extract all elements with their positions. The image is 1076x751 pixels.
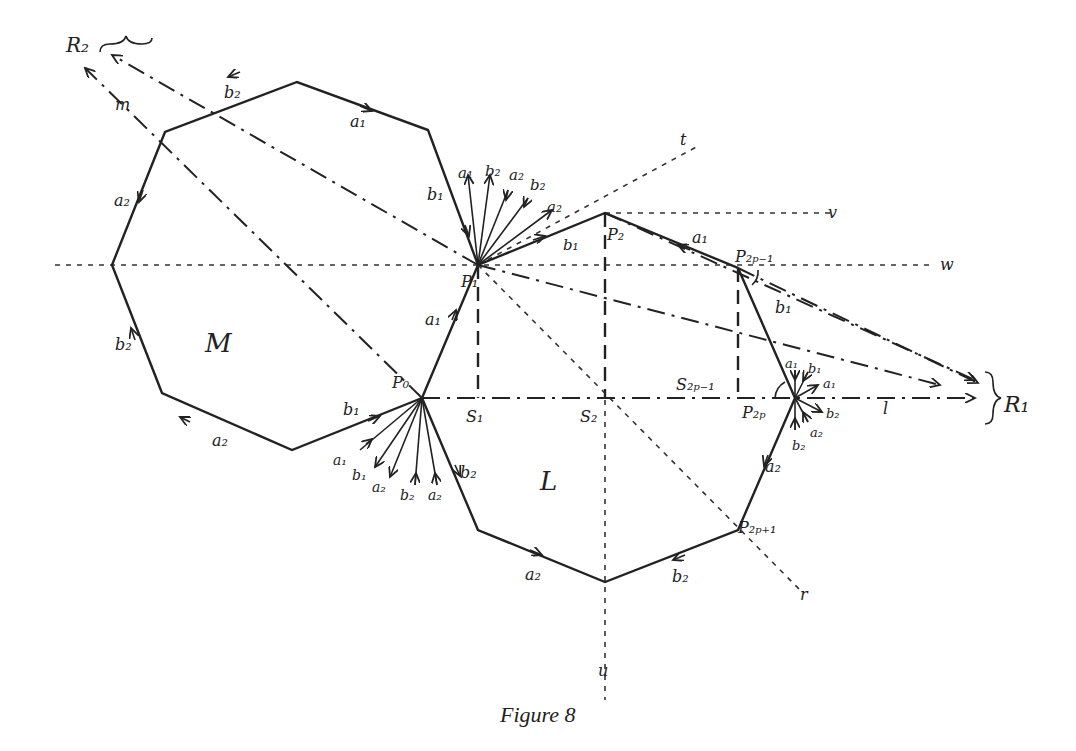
svg-text:a₂: a₂ xyxy=(428,487,442,503)
svg-text:S₂ₚ₋₁: S₂ₚ₋₁ xyxy=(676,375,715,394)
svg-text:b₂: b₂ xyxy=(485,162,501,180)
svg-text:a₁: a₁ xyxy=(785,356,798,371)
svg-text:S₁: S₁ xyxy=(466,407,483,426)
polygon-M xyxy=(112,82,478,450)
svg-text:v: v xyxy=(828,203,837,222)
svg-text:b₂: b₂ xyxy=(115,335,132,354)
svg-text:a₁: a₁ xyxy=(350,112,366,131)
svg-text:b₁: b₁ xyxy=(427,185,444,204)
figure-caption: Figure 8 xyxy=(499,702,576,727)
svg-text:P₀: P₀ xyxy=(391,373,410,392)
svg-text:P₂ₚ₋₁: P₂ₚ₋₁ xyxy=(734,247,773,266)
svg-text:P₁: P₁ xyxy=(460,272,478,291)
svg-text:b₂: b₂ xyxy=(826,406,840,421)
figure-8-diagram: R₂ m b₂ a₁ a₂ b₁ a₁ b₂ a₂ b₂ a₂ b₁ P₁ P₂… xyxy=(0,0,1076,751)
svg-text:P₂ₚ: P₂ₚ xyxy=(741,403,766,422)
svg-text:a₂: a₂ xyxy=(372,479,386,495)
svg-text:P₂ₚ₊₁: P₂ₚ₊₁ xyxy=(737,518,776,537)
svg-text:R₂: R₂ xyxy=(65,33,89,57)
labels: R₂ m b₂ a₁ a₂ b₁ a₁ b₂ a₂ b₂ a₂ b₁ P₁ P₂… xyxy=(65,33,1029,680)
svg-text:R₁: R₁ xyxy=(1003,392,1029,417)
svg-text:b₂: b₂ xyxy=(224,83,241,102)
svg-text:a₁: a₁ xyxy=(333,452,347,468)
svg-text:a₂: a₂ xyxy=(810,425,823,440)
svg-text:a₂: a₂ xyxy=(509,166,524,184)
svg-text:a₂: a₂ xyxy=(765,457,781,476)
svg-text:a₁: a₁ xyxy=(458,164,473,182)
svg-text:L: L xyxy=(539,466,557,496)
fan-P0 xyxy=(360,398,437,485)
svg-text:b₂: b₂ xyxy=(460,463,477,482)
svg-text:a₁: a₁ xyxy=(425,310,441,329)
svg-text:w: w xyxy=(940,255,954,274)
svg-text:b₁: b₁ xyxy=(808,361,822,376)
svg-text:t: t xyxy=(680,130,687,149)
svg-text:a₁: a₁ xyxy=(823,376,836,391)
svg-text:a₂: a₂ xyxy=(547,198,562,216)
svg-text:a₂: a₂ xyxy=(525,565,541,584)
svg-text:S₂: S₂ xyxy=(580,407,597,426)
svg-text:M: M xyxy=(204,328,233,358)
svg-text:b₁: b₁ xyxy=(343,400,360,419)
svg-text:r: r xyxy=(800,585,809,604)
svg-text:b₁: b₁ xyxy=(775,298,792,317)
svg-text:b₂: b₂ xyxy=(792,438,806,453)
svg-text:b₁: b₁ xyxy=(563,236,579,254)
brace-R2 xyxy=(100,36,152,52)
svg-text:b₂: b₂ xyxy=(672,567,689,586)
svg-text:b₂: b₂ xyxy=(530,176,546,194)
svg-text:a₂: a₂ xyxy=(114,191,130,210)
svg-text:m: m xyxy=(115,95,130,114)
dotted-lines xyxy=(55,145,935,700)
brace-R1 xyxy=(985,372,1001,424)
svg-text:b₁: b₁ xyxy=(352,467,367,483)
svg-text:u: u xyxy=(598,661,608,680)
svg-text:a₂: a₂ xyxy=(212,431,228,450)
svg-text:a₁: a₁ xyxy=(692,228,708,247)
svg-text:P₂: P₂ xyxy=(606,225,624,244)
svg-text:l: l xyxy=(883,399,888,418)
svg-text:b₂: b₂ xyxy=(400,487,415,503)
